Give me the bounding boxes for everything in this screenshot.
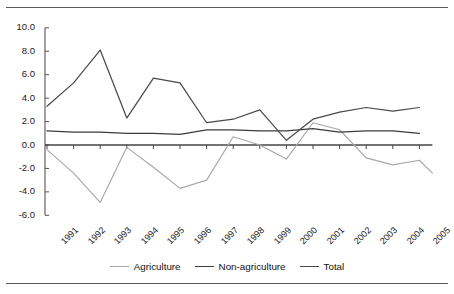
legend-line-swatch bbox=[110, 266, 129, 267]
legend-line-swatch bbox=[195, 266, 214, 267]
legend-label: Non-agriculture bbox=[219, 261, 286, 272]
series-line-non-agriculture bbox=[47, 129, 419, 135]
y-tick-label: 2.0 bbox=[5, 115, 35, 126]
y-tick-label: 10.0 bbox=[5, 21, 35, 32]
legend-label: Agriculture bbox=[134, 261, 181, 272]
y-tick-label: 6.0 bbox=[5, 68, 35, 79]
series-line-total bbox=[47, 50, 419, 140]
legend-line-swatch bbox=[300, 266, 319, 267]
chart-figure: 10.08.06.04.02.00.0-2.0-4.0-6.0 19911992… bbox=[0, 0, 454, 294]
y-axis-ticks bbox=[45, 28, 49, 216]
series-line-agriculture bbox=[47, 123, 432, 203]
y-tick-label: 4.0 bbox=[5, 92, 35, 103]
y-tick-label: 0.0 bbox=[5, 139, 35, 150]
legend-item[interactable]: Agriculture bbox=[110, 261, 181, 272]
legend-item[interactable]: Total bbox=[300, 261, 345, 272]
y-tick-label: -4.0 bbox=[5, 185, 35, 196]
y-tick-label: 8.0 bbox=[5, 45, 35, 56]
line-chart-plot bbox=[0, 0, 454, 294]
legend-label: Total bbox=[324, 261, 345, 272]
y-tick-label: -2.0 bbox=[5, 162, 35, 173]
legend-item[interactable]: Non-agriculture bbox=[195, 261, 286, 272]
chart-legend: AgricultureNon-agricultureTotal bbox=[0, 261, 454, 272]
y-tick-label: -6.0 bbox=[5, 209, 35, 220]
